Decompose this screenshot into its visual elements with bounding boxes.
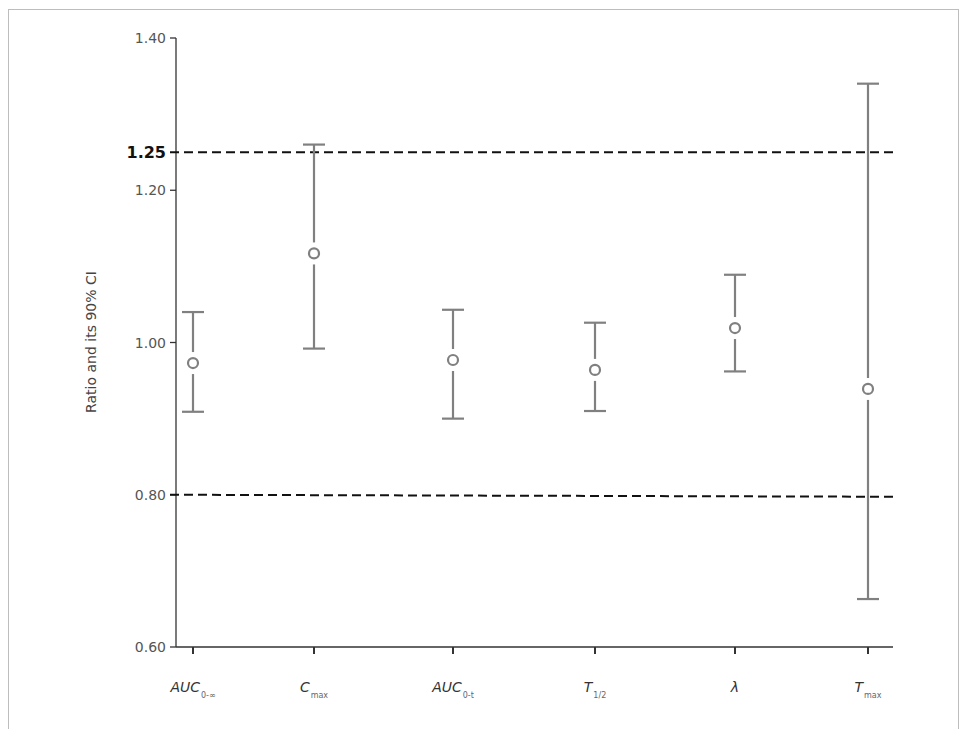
- reference-lines: 1.25: [127, 143, 893, 497]
- reference-line-label: 1.25: [127, 143, 166, 162]
- point-estimate-marker: [188, 358, 198, 368]
- y-tick-label: 1.20: [135, 182, 166, 198]
- error-bars: [182, 84, 879, 599]
- reference-line: [170, 495, 893, 497]
- y-tick-label: 1.40: [135, 30, 166, 46]
- x-category-label: λ: [730, 679, 739, 695]
- x-axis: AUC0-∞CmaxAUC0-tT1/2λTmax: [169, 647, 893, 700]
- y-axis-label: Ratio and its 90% CI: [83, 271, 99, 413]
- x-category-label: AUC0-∞: [169, 679, 215, 700]
- y-tick-label: 0.60: [135, 639, 166, 655]
- error-bar: [303, 145, 325, 349]
- point-estimate-marker: [863, 384, 873, 394]
- point-estimate-marker: [730, 323, 740, 333]
- x-category-label: T1/2: [584, 679, 606, 700]
- error-bar: [857, 84, 879, 599]
- error-bar: [442, 310, 464, 419]
- y-tick-label: 1.00: [135, 335, 166, 351]
- point-estimate-marker: [448, 355, 458, 365]
- x-category-label: AUC0-t: [431, 679, 474, 700]
- point-estimate-marker: [309, 248, 319, 258]
- x-category-label: Tmax: [855, 679, 882, 700]
- y-axis: 0.600.801.001.201.40: [135, 30, 176, 655]
- error-bar: [724, 275, 746, 372]
- point-estimate-marker: [590, 365, 600, 375]
- y-tick-label: 0.80: [135, 487, 166, 503]
- error-bar: [584, 323, 606, 411]
- error-bar: [182, 312, 204, 412]
- x-category-label: Cmax: [300, 679, 328, 700]
